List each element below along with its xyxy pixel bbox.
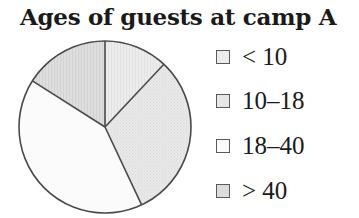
legend-swatch-over-40 bbox=[216, 184, 230, 198]
pie-slices bbox=[19, 41, 191, 213]
legend-swatch-10-18 bbox=[216, 94, 230, 108]
legend-item-over-40: > 40 bbox=[216, 176, 287, 206]
pie-chart-svg bbox=[0, 0, 359, 218]
legend-label: > 40 bbox=[242, 176, 287, 206]
legend-item-10-18: 10–18 bbox=[216, 86, 305, 116]
legend-swatch-18-40 bbox=[216, 139, 230, 153]
legend-label: 18–40 bbox=[242, 131, 305, 161]
legend-swatch-under-10 bbox=[216, 50, 230, 64]
pie-chart bbox=[0, 0, 359, 218]
legend-label: 10–18 bbox=[242, 86, 305, 116]
legend-item-under-10: < 10 bbox=[216, 42, 287, 72]
legend-item-18-40: 18–40 bbox=[216, 131, 305, 161]
legend-label: < 10 bbox=[242, 42, 287, 72]
